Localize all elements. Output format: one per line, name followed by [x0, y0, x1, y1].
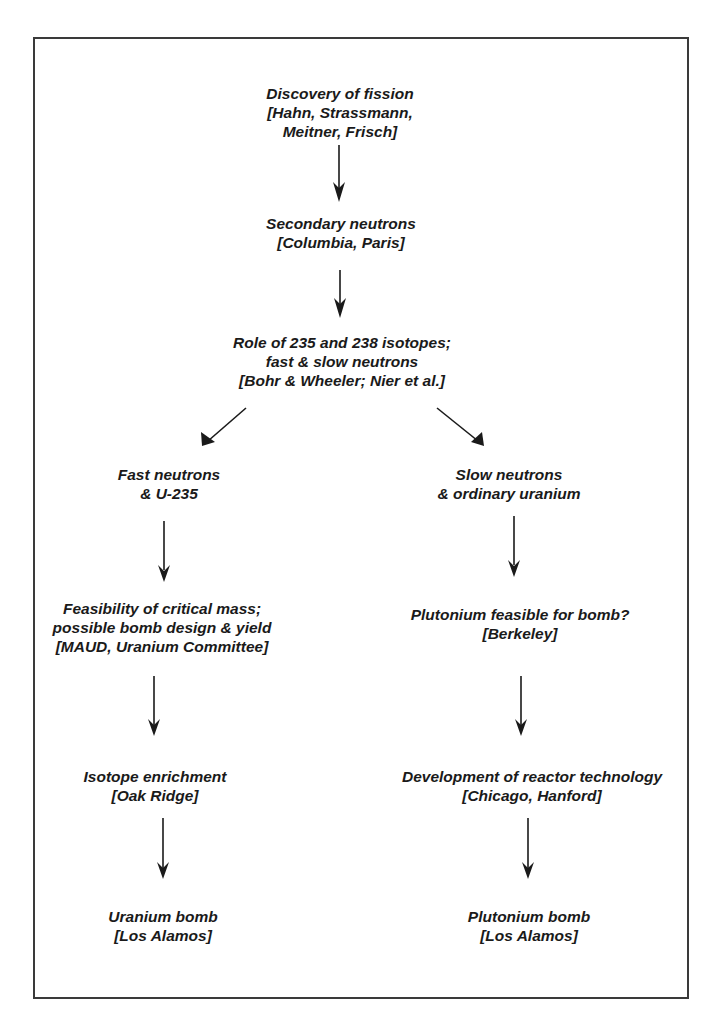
node-label: Plutonium feasible for bomb?	[411, 605, 630, 624]
node-label: Development of reactor technology	[402, 767, 662, 786]
arrow-n3-n5	[437, 408, 484, 446]
arrow-n4-n6	[158, 521, 170, 582]
node-label: [Berkeley]	[411, 624, 630, 643]
arrow-n9-n11	[522, 818, 534, 879]
arrow-n5-n7	[508, 516, 520, 577]
node-slow-neutrons: Slow neutrons & ordinary uranium	[438, 465, 581, 503]
arrow-n8-n10	[157, 818, 169, 879]
node-label: [Chicago, Hanford]	[402, 786, 662, 805]
node-reactor-technology: Development of reactor technology [Chica…	[402, 767, 662, 805]
node-label: & U-235	[118, 484, 220, 503]
node-label: Secondary neutrons	[266, 214, 416, 233]
node-label: possible bomb design & yield	[53, 618, 272, 637]
node-label: Feasibility of critical mass;	[53, 599, 272, 618]
node-label: Discovery of fission	[266, 84, 413, 103]
node-label: Meitner, Frisch]	[266, 122, 413, 141]
node-label: fast & slow neutrons	[233, 352, 451, 371]
node-label: Plutonium bomb	[468, 907, 590, 926]
arrow-n1-n2	[333, 145, 345, 202]
node-role-of-isotopes: Role of 235 and 238 isotopes; fast & slo…	[233, 333, 451, 390]
node-feasibility-critical-mass: Feasibility of critical mass; possible b…	[53, 599, 272, 656]
node-label: Uranium bomb	[108, 907, 217, 926]
arrow-n6-n8	[148, 676, 160, 736]
arrow-n2-n3	[334, 270, 346, 318]
node-label: [Hahn, Strassmann,	[266, 103, 413, 122]
node-plutonium-bomb: Plutonium bomb [Los Alamos]	[468, 907, 590, 945]
node-label: [Los Alamos]	[108, 926, 217, 945]
node-label: [Bohr & Wheeler; Nier et al.]	[233, 371, 451, 390]
node-label: [MAUD, Uranium Committee]	[53, 637, 272, 656]
node-label: Slow neutrons	[438, 465, 581, 484]
arrows-layer	[0, 0, 713, 1025]
node-label: & ordinary uranium	[438, 484, 581, 503]
node-label: Role of 235 and 238 isotopes;	[233, 333, 451, 352]
node-isotope-enrichment: Isotope enrichment [Oak Ridge]	[84, 767, 227, 805]
node-label: [Columbia, Paris]	[266, 233, 416, 252]
node-label: [Oak Ridge]	[84, 786, 227, 805]
node-uranium-bomb: Uranium bomb [Los Alamos]	[108, 907, 217, 945]
node-label: [Los Alamos]	[468, 926, 590, 945]
arrow-n7-n9	[515, 676, 527, 736]
node-discovery-of-fission: Discovery of fission [Hahn, Strassmann, …	[266, 84, 413, 141]
node-fast-neutrons: Fast neutrons & U-235	[118, 465, 220, 503]
node-plutonium-feasible: Plutonium feasible for bomb? [Berkeley]	[411, 605, 630, 643]
node-label: Isotope enrichment	[84, 767, 227, 786]
node-label: Fast neutrons	[118, 465, 220, 484]
node-secondary-neutrons: Secondary neutrons [Columbia, Paris]	[266, 214, 416, 252]
arrow-n3-n4	[201, 408, 246, 446]
